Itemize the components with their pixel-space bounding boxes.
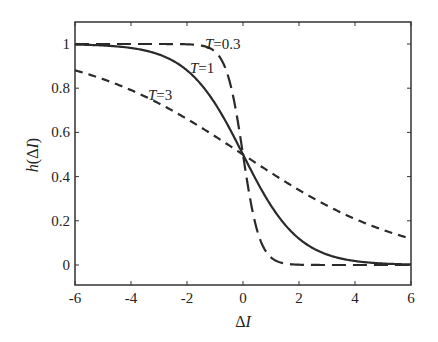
curves <box>75 44 411 265</box>
y-tick-label: 0.6 <box>51 124 70 140</box>
x-tick-label: -6 <box>69 290 82 306</box>
x-tick-label: -2 <box>181 290 194 306</box>
axis-ticks: -6-4-2024600.20.40.60.81 <box>51 22 415 306</box>
x-tick-label: -4 <box>125 290 138 306</box>
curve-label: T=3 <box>148 87 172 103</box>
x-tick-label: 2 <box>295 290 303 306</box>
x-tick-label: 0 <box>239 290 247 306</box>
y-tick-label: 0.8 <box>51 80 70 96</box>
x-tick-label: 6 <box>407 290 415 306</box>
y-tick-label: 0.4 <box>51 169 70 185</box>
curve-label: T=0.3 <box>205 36 241 52</box>
y-tick-label: 1 <box>63 36 71 52</box>
x-tick-label: 4 <box>351 290 359 306</box>
curve-labels: T=0.3T=1T=3 <box>148 36 241 103</box>
curve-label: T=1 <box>190 60 214 76</box>
y-tick-label: 0.2 <box>51 213 70 229</box>
y-tick-label: 0 <box>63 257 71 273</box>
curve-t-3 <box>75 70 411 238</box>
x-axis-label: ΔI <box>235 313 251 330</box>
y-axis-label: h(ΔI) <box>24 138 42 172</box>
chart: -6-4-2024600.20.40.60.81 T=0.3T=1T=3 ΔI … <box>0 0 438 342</box>
